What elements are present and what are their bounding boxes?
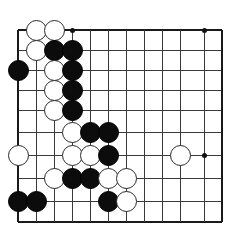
grid-line-horizontal-6 [18,155,222,156]
stone-white-c2-r0[interactable] [44,20,65,41]
stone-white-c9-r6[interactable] [170,145,191,166]
grid-line-vertical-9 [180,30,181,222]
stone-black-c3-r2[interactable] [62,60,83,81]
stone-white-c6-r7[interactable] [116,168,137,189]
stone-black-c3-r1[interactable] [62,40,83,61]
star-point-top-right [202,28,207,33]
stone-black-c3-r4[interactable] [62,100,83,121]
stone-black-c1-r8[interactable] [26,191,47,212]
stone-black-c3-r3[interactable] [62,80,83,101]
grid-line-vertical-10 [204,30,205,222]
stone-black-c5-r6[interactable] [98,145,119,166]
grid-line-vertical-8 [162,30,163,222]
star-point-middle-right [202,153,207,158]
grid-line-horizontal-5 [18,132,222,133]
go-board[interactable] [0,0,229,243]
grid-line-horizontal-9 [18,221,222,223]
stone-white-c6-r8[interactable] [116,191,137,212]
grid-line-vertical-7 [144,30,145,222]
stone-black-c5-r5[interactable] [98,122,119,143]
stone-black-c0-r2[interactable] [8,60,29,81]
grid-line-vertical-11 [221,30,223,222]
star-point-top-left [70,28,75,33]
go-board-diagram [0,0,229,243]
stone-white-c0-r6[interactable] [8,145,29,166]
